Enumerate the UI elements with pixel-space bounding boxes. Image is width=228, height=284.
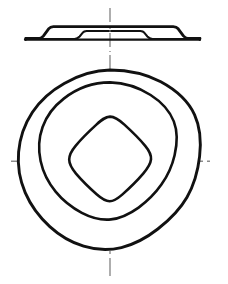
drawing-svg-root	[0, 0, 228, 284]
technical-drawing-canvas	[0, 0, 228, 284]
section-view	[25, 8, 200, 52]
section-crown-profile	[26, 27, 200, 39]
plan-view	[11, 55, 212, 276]
